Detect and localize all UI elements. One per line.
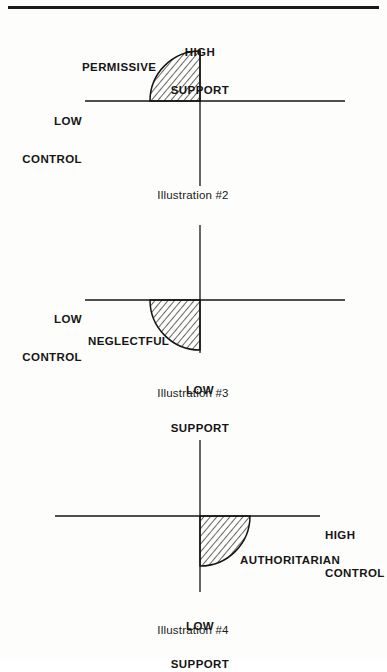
horizontal-axis-label-low-control: LOW CONTROL: [0, 90, 82, 190]
horizontal-axis-label-line2: CONTROL: [0, 153, 82, 166]
style-label-neglectful: NEGLECTFUL: [88, 335, 169, 348]
vertical-axis-label-line1: HIGH: [150, 46, 250, 59]
horizontal-axis-label-line1: HIGH: [325, 529, 387, 542]
horizontal-axis-label-line1: LOW: [0, 115, 82, 128]
figure-caption: Illustration #2: [93, 189, 293, 201]
horizontal-axis-label-low-control: LOW CONTROL: [0, 288, 82, 388]
vertical-axis-label-line2: SUPPORT: [150, 84, 250, 97]
vertical-axis-label-line2: SUPPORT: [150, 422, 250, 435]
vertical-axis-label-line2: SUPPORT: [150, 658, 250, 671]
style-label-permissive: PERMISSIVE: [82, 61, 156, 74]
horizontal-axis-label-line1: LOW: [0, 313, 82, 326]
style-label-authoritarian: AUTHORITARIAN: [240, 554, 340, 567]
vertical-axis-label-high-support: HIGH SUPPORT: [150, 21, 250, 121]
illustration-4-figure: HIGH CONTROL AUTHORITARIAN LOW SUPPORT I…: [0, 440, 387, 660]
horizontal-axis-label-line2: CONTROL: [0, 351, 82, 364]
illustration-2-figure: HIGH SUPPORT LOW CONTROL PERMISSIVE Illu…: [0, 0, 387, 220]
figure-caption: Illustration #3: [93, 387, 293, 399]
figure-caption: Illustration #4: [93, 624, 293, 636]
illustration-3-figure: LOW CONTROL NEGLECTFUL LOW SUPPORT Illus…: [0, 220, 387, 440]
horizontal-axis-label-line2: CONTROL: [325, 567, 387, 580]
